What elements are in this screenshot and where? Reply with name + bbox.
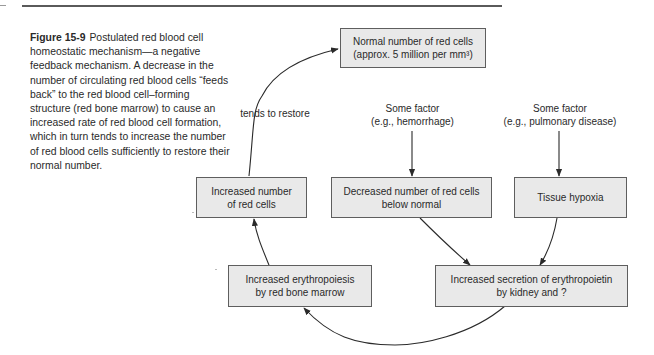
label-factor-pulmonary: Some factor (e.g., pulmonary disease) [500,102,620,128]
label-tends-to-restore: tends to restore [225,107,325,120]
node-normal-red-cells: Normal number of red cells (approx. 5 mi… [340,28,486,68]
node-erythropoietin-secretion: Increased secretion of erythropoietin by… [435,265,628,307]
scan-speck [215,269,217,270]
label-factor-hemorrhage: Some factor (e.g., hemorrhage) [355,102,470,128]
node-decreased-red-cells: Decreased number of red cells below norm… [331,177,492,218]
node-normal-line2: (approx. 5 million per mm³) [353,48,472,61]
node-tissue-hypoxia: Tissue hypoxia [514,177,627,218]
node-increased-red-cells: Increased number of red cells [196,177,307,218]
arrow-erythropoiesis-to-increased [254,219,269,265]
arrow-hypoxia-to-erythropoietin [540,218,557,265]
scan-speck [192,212,194,213]
arrow-erythropoietin-to-erythropoiesis [304,306,505,345]
node-increased-erythropoiesis: Increased erythropoiesis by red bone mar… [228,265,372,307]
node-normal-line1: Normal number of red cells [353,35,473,48]
arrow-decreased-to-erythropoietin [420,218,470,265]
